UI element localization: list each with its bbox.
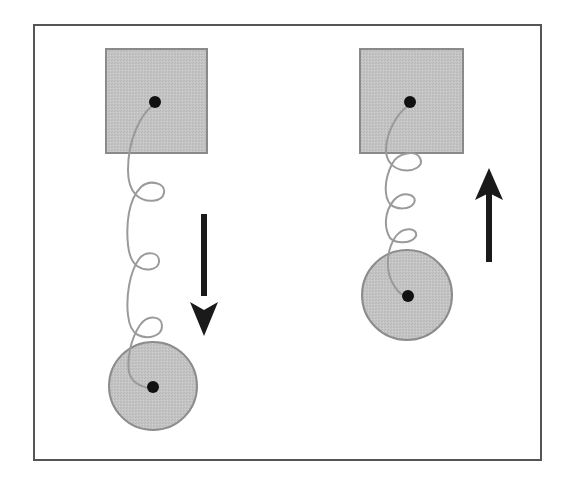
right-top-pivot xyxy=(404,96,416,108)
right-mass-pivot xyxy=(402,290,414,302)
left-top-pivot xyxy=(149,96,161,108)
left-mass-pivot xyxy=(147,381,159,393)
spring-mass-diagram xyxy=(0,0,567,484)
